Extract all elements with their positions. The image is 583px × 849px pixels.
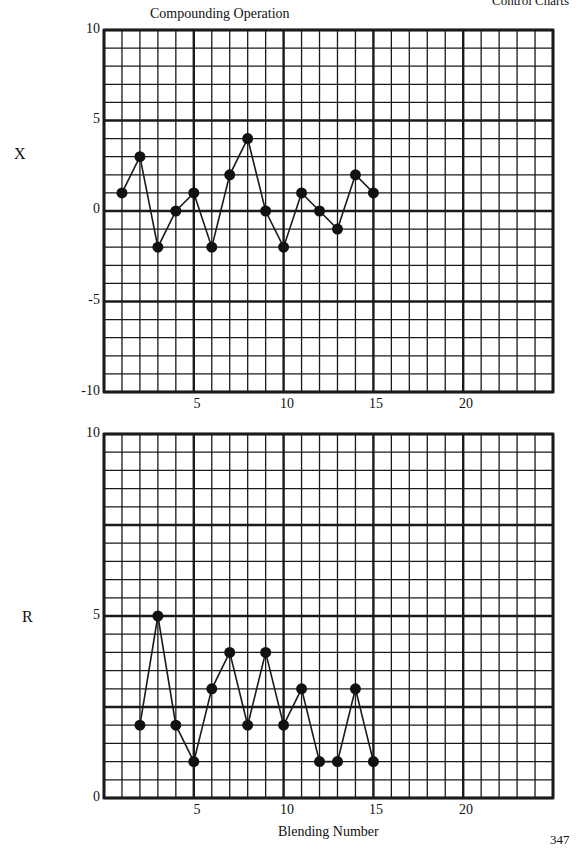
x-chart-xtick: 20 xyxy=(451,396,481,412)
data-point xyxy=(116,187,127,198)
data-point xyxy=(368,756,379,767)
r-chart-xtick: 10 xyxy=(272,802,302,818)
data-point xyxy=(206,683,217,694)
data-point xyxy=(368,187,379,198)
r-chart-ytick: 10 xyxy=(60,425,100,441)
r-chart-xtick: 5 xyxy=(182,802,212,818)
data-point xyxy=(224,647,235,658)
data-point xyxy=(242,133,253,144)
data-point xyxy=(296,683,307,694)
x-chart-ytick: -5 xyxy=(60,292,100,308)
r-chart-ytick: 0 xyxy=(60,789,100,805)
data-point xyxy=(350,683,361,694)
data-point xyxy=(332,756,343,767)
r-chart-xtick: 20 xyxy=(451,802,481,818)
x-axis-label: Blending Number xyxy=(278,824,379,840)
x-chart-xtick: 10 xyxy=(272,396,302,412)
page-number: 347 xyxy=(550,832,570,848)
running-header: Control Charts xyxy=(492,0,569,9)
data-point xyxy=(278,242,289,253)
x-chart-plot xyxy=(104,30,553,392)
data-point xyxy=(314,756,325,767)
data-point xyxy=(332,224,343,235)
data-point xyxy=(134,720,145,731)
data-point xyxy=(206,242,217,253)
grid xyxy=(104,434,553,798)
r-chart-ytick: 5 xyxy=(60,607,100,623)
x-chart-xtick: 15 xyxy=(361,396,391,412)
x-chart-ytick: 5 xyxy=(60,111,100,127)
data-point xyxy=(188,756,199,767)
x-chart-ylabel: X xyxy=(14,145,26,163)
r-chart-plot xyxy=(104,434,553,798)
r-chart-xtick: 15 xyxy=(361,802,391,818)
data-point xyxy=(278,720,289,731)
x-chart-ytick: 0 xyxy=(60,201,100,217)
data-point xyxy=(260,647,271,658)
data-point xyxy=(170,206,181,217)
data-point xyxy=(170,720,181,731)
data-point xyxy=(260,206,271,217)
data-point xyxy=(314,206,325,217)
r-chart-ylabel: R xyxy=(22,608,33,626)
x-chart-ytick: 10 xyxy=(60,21,100,37)
chart-title: Compounding Operation xyxy=(150,6,290,22)
data-point xyxy=(224,169,235,180)
data-point xyxy=(350,169,361,180)
data-point xyxy=(296,187,307,198)
data-point xyxy=(134,151,145,162)
x-chart-xtick: 5 xyxy=(182,396,212,412)
x-chart-ytick: -10 xyxy=(60,383,100,399)
data-point xyxy=(152,242,163,253)
data-point xyxy=(188,187,199,198)
data-point xyxy=(152,611,163,622)
data-point xyxy=(242,720,253,731)
